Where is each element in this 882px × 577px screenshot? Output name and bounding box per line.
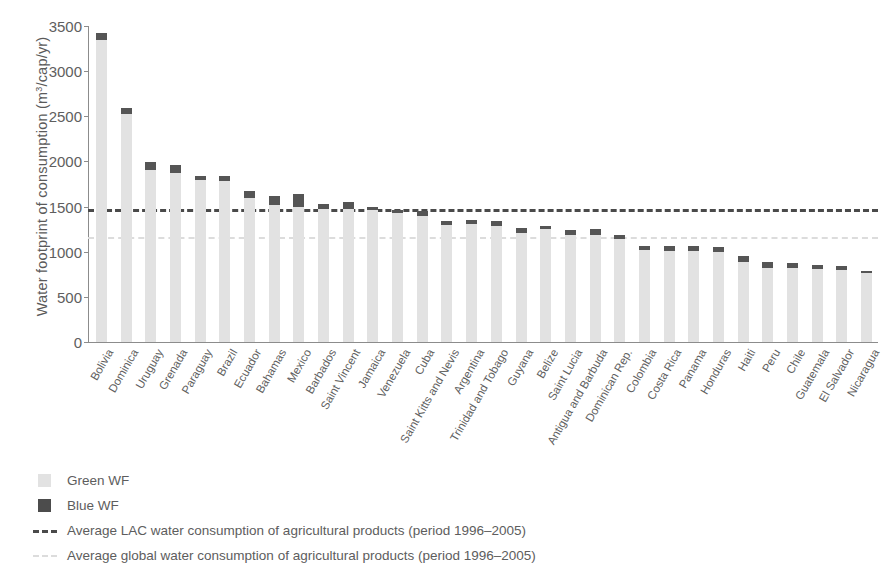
bar-bahamas (269, 26, 280, 342)
bar-segment-blue-wf (170, 165, 181, 173)
bar-brazil (219, 26, 230, 342)
bar-segment-green-wf (614, 239, 625, 342)
y-tickmark (84, 116, 89, 117)
bar-segment-blue-wf (812, 265, 823, 269)
bar-venezuela (392, 26, 403, 342)
plot-area (88, 26, 878, 342)
chart-legend: Green WFBlue WFAverage LAC water consump… (34, 468, 864, 568)
y-tickmark (84, 297, 89, 298)
bar-barbados (318, 26, 329, 342)
bar-panama (688, 26, 699, 342)
bar-segment-green-wf (244, 198, 255, 342)
bar-segment-blue-wf (762, 262, 773, 268)
y-tickmark (84, 207, 89, 208)
x-tick-label: Chile (783, 347, 807, 376)
reference-line-lac (88, 209, 878, 212)
reference-line-global (88, 237, 878, 239)
y-tickmark (84, 26, 89, 27)
bar-segment-blue-wf (269, 196, 280, 205)
bar-segment-blue-wf (121, 108, 132, 113)
bar-nicaragua (861, 26, 872, 342)
bar-belize (540, 26, 551, 342)
bar-segment-blue-wf (738, 256, 749, 261)
bar-paraguay (195, 26, 206, 342)
bar-honduras (713, 26, 724, 342)
y-axis-tick-labels: 3500300025002000150010005000 (0, 26, 82, 343)
bar-segment-green-wf (318, 209, 329, 342)
bar-colombia (639, 26, 650, 342)
bar-segment-blue-wf (219, 176, 230, 181)
bar-segment-blue-wf (664, 246, 675, 251)
legend-item: Average LAC water consumption of agricul… (34, 518, 864, 543)
bar-segment-blue-wf (343, 202, 354, 209)
bar-segment-green-wf (738, 262, 749, 342)
legend-label: Average global water consumption of agri… (67, 543, 536, 568)
bar-segment-green-wf (516, 233, 527, 342)
bar-saint-lucia (565, 26, 576, 342)
bar-segment-green-wf (343, 209, 354, 342)
y-tickmark (84, 161, 89, 162)
bar-segment-blue-wf (787, 263, 798, 268)
x-tick-label: Brazil (214, 347, 239, 378)
bar-argentina (466, 26, 477, 342)
bar-segment-blue-wf (367, 207, 378, 211)
bar-segment-blue-wf (590, 229, 601, 234)
bar-segment-green-wf (836, 270, 847, 342)
bar-segment-green-wf (565, 235, 576, 342)
bar-segment-blue-wf (861, 271, 872, 274)
bar-segment-green-wf (145, 170, 156, 342)
y-tickmark (84, 342, 89, 343)
bar-segment-blue-wf (318, 204, 329, 209)
bar-saint-kitts-and-nevis (441, 26, 452, 342)
x-axis-tick-labels: BoliviaDominicaUruguayGrenadaParaguayBra… (88, 345, 878, 465)
y-tickmark (84, 252, 89, 253)
bar-segment-green-wf (491, 226, 502, 342)
bar-segment-green-wf (639, 250, 650, 342)
bar-segment-blue-wf (540, 226, 551, 230)
bar-segment-green-wf (688, 251, 699, 342)
bar-segment-blue-wf (392, 210, 403, 213)
bar-antigua-and-barbuda (590, 26, 601, 342)
bar-segment-blue-wf (836, 266, 847, 270)
bar-cuba (417, 26, 428, 342)
bar-segment-blue-wf (713, 247, 724, 252)
y-tick-2500: 2500 (49, 108, 82, 125)
y-tick-1000: 1000 (49, 243, 82, 260)
legend-item: Average global water consumption of agri… (34, 543, 864, 568)
bar-segment-green-wf (121, 114, 132, 342)
bar-mexico (293, 26, 304, 342)
bar-chile (787, 26, 798, 342)
bar-bolivia (96, 26, 107, 342)
bar-dominican-rep- (614, 26, 625, 342)
x-axis-line (88, 342, 878, 343)
legend-label: Green WF (67, 468, 129, 493)
bar-segment-blue-wf (516, 228, 527, 233)
y-tickmark (84, 71, 89, 72)
x-tick-label: Peru (760, 347, 783, 374)
y-tick-500: 500 (57, 288, 82, 305)
bar-guyana (516, 26, 527, 342)
bar-segment-green-wf (441, 225, 452, 342)
bar-segment-blue-wf (417, 211, 428, 216)
bar-trinidad-and-tobago (491, 26, 502, 342)
legend-swatch-green (38, 474, 51, 487)
bar-segment-blue-wf (441, 221, 452, 225)
bar-segment-blue-wf (688, 246, 699, 251)
bar-el-salvador (836, 26, 847, 342)
bar-segment-green-wf (269, 205, 280, 342)
y-tick-2000: 2000 (49, 153, 82, 170)
legend-line-glob (33, 555, 57, 557)
bar-segment-blue-wf (145, 162, 156, 169)
bar-costa-rica (664, 26, 675, 342)
bar-segment-blue-wf (466, 220, 477, 224)
x-tick-label: Haiti (736, 347, 758, 373)
bar-segment-green-wf (466, 224, 477, 342)
bar-segment-blue-wf (195, 176, 206, 181)
bar-segment-green-wf (195, 180, 206, 342)
bar-segment-green-wf (219, 181, 230, 342)
bar-segment-green-wf (170, 173, 181, 342)
water-footprint-bar-chart: Water footprint of consumption (m3/cap/y… (0, 0, 882, 577)
legend-label: Blue WF (67, 493, 119, 518)
bar-segment-blue-wf (565, 230, 576, 235)
bar-segment-blue-wf (614, 235, 625, 239)
